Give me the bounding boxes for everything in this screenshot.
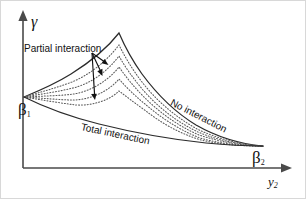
beta1-base: β	[18, 100, 27, 119]
partial-arrow-3-head	[91, 94, 97, 100]
partial-interaction-label: Partial interaction	[24, 44, 101, 54]
partial-arrow-3-line	[92, 53, 95, 95]
up-arrow-head	[18, 10, 27, 21]
curve-partial-interaction-2	[24, 56, 263, 146]
beta2-base: β	[252, 148, 261, 167]
x-axis-label-subscript: 2	[274, 181, 278, 190]
y-axis-label: γ	[31, 14, 37, 30]
beta1-subscript: 1	[27, 110, 31, 119]
beta1-label: β1	[18, 101, 31, 119]
x-axis-label: y2	[268, 175, 278, 190]
beta2-subscript: 2	[261, 158, 265, 167]
beta2-label: β2	[252, 149, 265, 167]
diagram-canvas	[1, 1, 306, 199]
interaction-curves-figure: γ y2 β1 β2 Partial interaction No intera…	[0, 0, 306, 199]
right-arrow-head	[281, 163, 292, 172]
